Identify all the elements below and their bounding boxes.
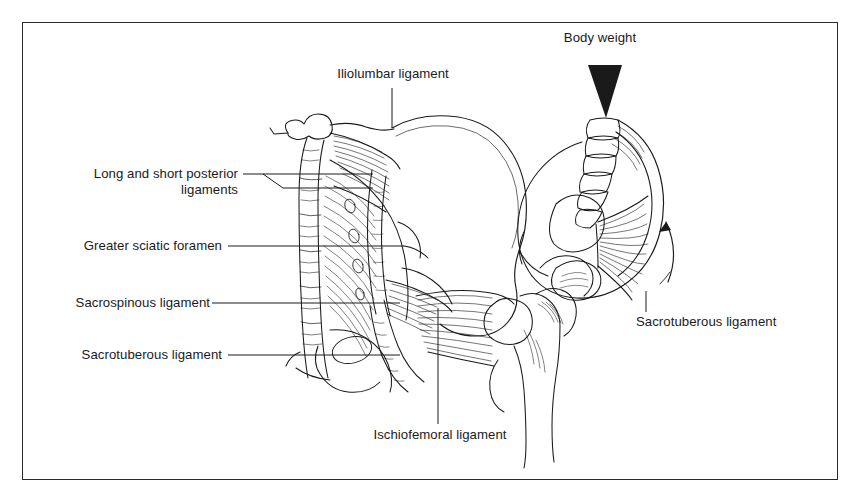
label-body-weight: Body weight <box>535 30 665 46</box>
l5-process-tip <box>270 128 288 134</box>
label-greater-sciatic-foramen: Greater sciatic foramen <box>20 238 222 254</box>
pubic-ramus-stub <box>286 352 300 366</box>
body-weight-arrow-icon <box>588 65 622 118</box>
lesser-trochanter <box>490 360 504 412</box>
inferior-ramus <box>296 368 330 380</box>
obturator-foramen <box>329 333 374 368</box>
label-ischiofemoral-ligament: Ischiofemoral ligament <box>355 427 525 443</box>
schematic-fan-apex <box>596 224 598 268</box>
ischiofemoral-upper <box>416 290 514 304</box>
schematic-coccyx <box>576 209 603 228</box>
leader-lines <box>212 88 646 424</box>
sacral-foramina <box>343 198 366 301</box>
label-sacrospinous-ligament: Sacrospinous ligament <box>20 295 210 311</box>
anatomy-figure: Iliolumbar ligament Body weight Long and… <box>0 0 849 499</box>
l5-upper-edge <box>330 123 394 130</box>
femur-medial-shaft <box>514 346 526 468</box>
label-long-short-posterior-line1: Long and short posterior <box>20 166 238 182</box>
iliolumbar-upper-border <box>330 133 400 169</box>
greater-notch-edge <box>404 246 428 258</box>
posterior-ligament-border <box>330 160 408 320</box>
iliac-crest-inner <box>396 126 518 248</box>
iliolumbar-fibers <box>334 136 389 200</box>
tuberosity-hatching <box>560 272 588 288</box>
label-sacrotuberous-ligament-right: Sacrotuberous ligament <box>636 314 836 330</box>
schematic-upper-fibers <box>612 126 644 170</box>
label-iliolumbar-ligament: Iliolumbar ligament <box>308 66 478 82</box>
label-long-short-posterior-line2: ligaments <box>20 182 238 198</box>
ischiofemoral-fibers <box>418 295 492 361</box>
label-sacrotuberous-ligament-left: Sacrotuberous ligament <box>20 347 222 363</box>
sacrospinous-fibers <box>387 284 438 334</box>
schematic-sacrotuberous-fibers <box>600 204 648 292</box>
schematic-iliac-inner <box>616 132 652 276</box>
psis-notch <box>398 222 421 258</box>
sacrum-medial-edge <box>318 140 328 378</box>
sacrotuberous-hatching <box>374 322 404 381</box>
force-schematic-drawing <box>518 65 674 300</box>
l5-vertebra <box>285 114 332 140</box>
schematic-fan-upper <box>598 196 648 222</box>
